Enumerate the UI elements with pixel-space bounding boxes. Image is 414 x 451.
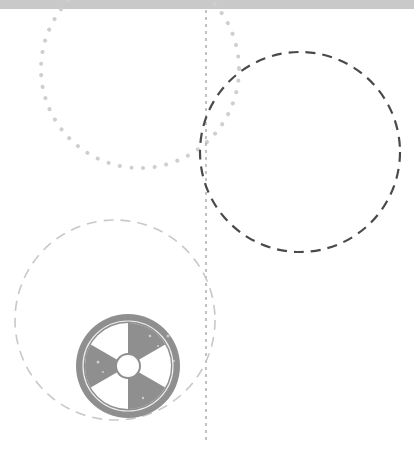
- dark-dashed-circle: [200, 52, 400, 252]
- dotted-circle: [41, 0, 239, 168]
- radiation-trefoil-icon[interactable]: [76, 314, 180, 418]
- drawing-canvas: [0, 0, 414, 451]
